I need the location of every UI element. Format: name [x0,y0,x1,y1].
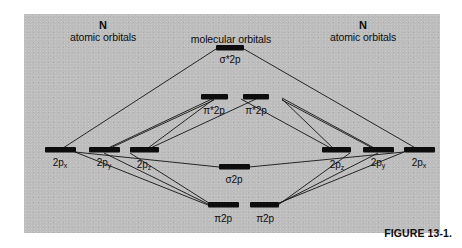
header-left-atom: N [38,20,168,32]
label-ao-left-2pz-text: 2p [137,159,148,170]
label-ao-right-2px: 2px [391,157,447,168]
label-ao-right-2py-sub: y [382,162,385,169]
bar-ao-right-2py [363,147,394,153]
label-ao-left-2pz: 2pz [116,159,172,170]
bar-ao-right-2pz [322,147,351,153]
header-left-subtitle: atomic orbitals [38,32,168,43]
bar-ao-left-2px [45,147,76,153]
label-ao-right-2pz-text: 2p [330,159,341,170]
bar-pi-2p-right [250,202,279,208]
bar-ao-left-2py [89,147,120,153]
label-ao-left-2px-text: 2p [53,157,64,168]
bar-ao-right-2px [404,147,435,153]
bar-pi-star-2p-left [201,94,228,100]
label-pi-star-2p-right: π*2p [228,105,284,116]
bar-ao-left-2pz [130,147,159,153]
label-ao-right-2pz-sub: z [341,164,344,171]
figure-page: N atomic orbitals molecular orbitals N a… [0,0,462,248]
label-ao-left-2py-sub: y [108,162,111,169]
header-center: molecular orbitals [168,33,294,45]
label-sigma-star-2p: σ*2p [200,54,260,65]
header-left: N atomic orbitals [38,20,168,43]
label-pi-2p-right: π2p [236,213,294,224]
label-ao-right-2py-text: 2p [371,157,382,168]
header-right-subtitle: atomic orbitals [298,32,428,43]
bar-sigma-star-2p [216,45,244,51]
header-center-title: molecular orbitals [191,33,271,45]
bar-pi-star-2p-right [243,94,269,100]
bar-sigma-2p [219,164,250,170]
header-right-atom: N [298,20,428,32]
label-ao-right-2px-text: 2p [412,157,423,168]
bar-pi-2p-left [208,202,239,208]
line-right-2py-to-pi-star-right [282,98,378,150]
figure-caption: FIGURE 13-1. [384,227,452,239]
label-sigma-2p: σ2p [205,174,263,185]
label-ao-right-2px-sub: x [423,162,426,169]
line-right-2py-to-pi-star-right-b [282,100,378,151]
label-ao-left-2px-sub: x [64,162,67,169]
line-right-2pz-to-pi-star-right [282,99,336,151]
label-ao-left-2py-text: 2p [97,157,108,168]
header-right: N atomic orbitals [298,20,428,43]
label-ao-left-2pz-sub: z [148,164,151,171]
line-right-2px-to-sigma-star [244,49,419,150]
